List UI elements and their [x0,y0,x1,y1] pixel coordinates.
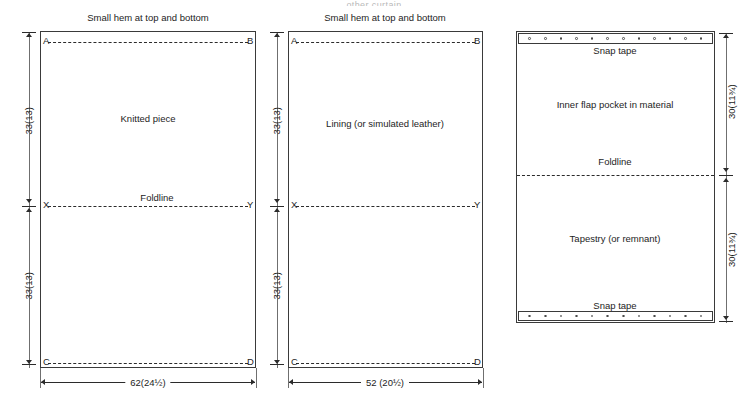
fold-mark-x-2: X [291,200,297,210]
dim-tick-bottom-3 [719,321,733,322]
corner-label-a-2: A [291,36,297,46]
dim-left-lower-1: 33(13) [24,256,34,316]
corner-label-b: B [247,36,253,46]
witness-right-bottom-2 [483,368,484,388]
dim-tick-top-1 [22,32,36,33]
line-ab-dashed-2 [296,42,475,43]
dim-right-upper-3: 30(11¾) [727,70,737,134]
lining-rect [288,31,483,368]
lining-label: Lining (or simulated leather) [326,119,444,129]
snap-dot [544,315,547,318]
corner-label-d-2: D [474,357,481,367]
fold-mark-x: X [43,200,49,210]
snap-dot [591,37,594,40]
dim-bottom-2: 52 (20½) [361,378,409,388]
snap-tape-top [518,33,713,44]
corner-label-c: C [43,357,50,367]
dim-arrow-mid-dn-1 [26,208,32,212]
dim-tick-bottom-2 [270,364,284,365]
dim-tick-mid-1 [22,206,36,207]
dim-arrow-mid-dn-2 [274,208,280,212]
dim-tick-top-3 [719,33,733,34]
snap-dot [684,315,687,318]
dim-tick-top-2 [270,32,284,33]
snap-dot [544,37,547,40]
dim-tick-mid-2 [270,206,284,207]
snap-dot [653,315,656,318]
snap-dot [560,315,563,318]
snap-dot [622,315,625,318]
corner-label-b-2: B [474,36,480,46]
snap-dot [528,37,531,40]
snap-dot [575,315,578,318]
dim-bottom-1: 62(24½) [125,378,170,388]
dim-arrow-mid-up-3 [723,168,729,172]
snap-tape-top-label: Snap tape [593,46,636,56]
foldline-xy-dashed-2 [296,206,475,207]
dim-left-upper-1: 33(13) [24,91,34,151]
dim-arrow-top-1 [26,33,32,37]
snap-tape-bottom [518,311,713,321]
snap-dot [653,37,656,40]
snap-dot [684,37,687,40]
corner-label-a: A [43,36,49,46]
snap-dot [700,37,703,40]
dim-tick-mid-3 [719,175,733,176]
snap-dot [606,315,609,318]
dim-arrow-mid-dn-3 [723,178,729,182]
tapestry-label: Tapestry (or remnant) [570,234,661,244]
snap-dot [606,37,609,40]
foldline-xy-dashed [48,206,248,207]
dim-left-lower-2: 33(13) [272,256,282,316]
snap-tape-bottom-label: Snap tape [593,301,636,311]
dim-arrow-left-2 [289,379,293,385]
pocket-rect [516,31,715,323]
inner-flap-pocket-label: Inner flap pocket in material [557,100,674,110]
corner-label-d: D [247,357,254,367]
snap-dot [669,315,672,318]
caption-small-hem-2: Small hem at top and bottom [324,13,445,23]
corner-label-c-2: C [291,357,298,367]
line-ab-dashed [48,42,248,43]
dim-arrow-top-3 [723,34,729,38]
snap-dot [669,37,672,40]
witness-right-bottom-1 [256,368,257,388]
dim-arrow-bottom-3 [723,316,729,320]
pattern-diagram-canvas: other curtain Small hem at top and botto… [0,0,747,410]
snap-dot [528,315,531,318]
foldline-dashed-3 [517,175,714,176]
dim-arrow-mid-up-2 [274,199,280,203]
dim-tick-bottom-1 [22,364,36,365]
snap-dot [622,37,625,40]
fold-mark-y: Y [247,200,253,210]
dim-arrow-left-1 [41,379,45,385]
witness-left-bottom-2 [288,368,289,388]
dim-arrow-right-1 [251,379,255,385]
snap-dot [638,37,641,40]
foldline-label-3: Foldline [598,157,631,167]
caption-small-hem-1: Small hem at top and bottom [87,13,208,23]
line-cd-dashed [48,363,248,364]
snap-dot [560,37,563,40]
fold-mark-y-2: Y [474,200,480,210]
dim-arrow-top-2 [274,33,280,37]
witness-left-bottom-1 [40,368,41,388]
snap-dot [700,315,703,318]
dim-arrow-mid-up-1 [26,199,32,203]
snap-dot [575,37,578,40]
knitted-piece-label: Knitted piece [121,114,176,124]
line-cd-dashed-2 [296,363,475,364]
snap-dot [638,315,641,318]
foldline-label-1: Foldline [137,193,176,203]
snap-dot [591,315,594,318]
page-heading-cropped: other curtain [346,0,401,6]
dim-arrow-right-2 [478,379,482,385]
dim-right-lower-3: 30(11¾) [727,218,737,282]
dim-left-upper-2: 33(13) [272,91,282,151]
